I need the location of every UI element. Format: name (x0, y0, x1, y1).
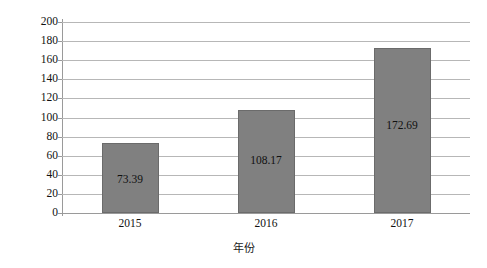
y-axis-tick-mark (58, 175, 62, 176)
gridline (62, 41, 470, 42)
y-axis-tick-mark (58, 22, 62, 23)
y-axis-tick-mark (58, 60, 62, 61)
y-axis-tick-label: 40 (24, 169, 58, 181)
x-axis-tick-label: 2016 (255, 218, 278, 230)
y-axis-tick-mark (58, 137, 62, 138)
y-axis-tick-mark (58, 79, 62, 80)
y-axis-tick-label: 100 (24, 112, 58, 124)
y-axis-tick-label: 60 (24, 150, 58, 162)
y-axis-tick-mark (58, 118, 62, 119)
bar-value-label: 108.17 (239, 155, 294, 167)
x-axis-tick-labels: 201520162017 (62, 218, 470, 236)
y-axis-tick-label: 180 (24, 35, 58, 47)
bar[interactable]: 73.39 (102, 143, 159, 213)
y-axis-tick-mark (58, 194, 62, 195)
bar[interactable]: 172.69 (374, 48, 431, 213)
plot-area: 73.39108.17172.69 (62, 22, 470, 213)
y-axis-tick-mark (58, 98, 62, 99)
bar-chart: 资产总额 / 亿元 200180160140120100806040200 73… (0, 0, 487, 268)
x-axis-tick-label: 2017 (391, 218, 414, 230)
bar-value-label: 172.69 (375, 120, 430, 132)
gridline (62, 213, 470, 214)
y-axis-tick-label: 0 (24, 207, 58, 219)
y-axis-tick-label: 120 (24, 93, 58, 105)
y-axis-tick-label: 80 (24, 131, 58, 143)
gridline (62, 22, 470, 23)
y-axis-tick-mark (58, 213, 62, 214)
y-axis-tick-label: 20 (24, 188, 58, 200)
y-axis-tick-mark (58, 156, 62, 157)
y-axis-tick-label: 140 (24, 74, 58, 86)
y-axis-tick-label: 200 (24, 16, 58, 28)
bar-value-label: 73.39 (103, 174, 158, 186)
y-axis-tick-label: 160 (24, 54, 58, 66)
y-axis-tick-labels: 200180160140120100806040200 (24, 22, 58, 213)
bar[interactable]: 108.17 (238, 110, 295, 213)
x-axis-tick-label: 2015 (119, 218, 142, 230)
x-axis-title: 年份 (0, 239, 487, 255)
y-axis-tick-mark (58, 41, 62, 42)
